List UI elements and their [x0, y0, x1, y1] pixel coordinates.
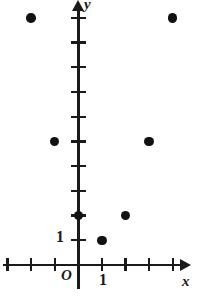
x-unit-tick-label: 1 [99, 272, 107, 288]
x-axis-arrow-icon [180, 259, 191, 271]
x-axis-tick [172, 258, 174, 271]
y-axis-tick [71, 165, 86, 167]
data-point [121, 211, 130, 220]
y-axis-tick [71, 140, 86, 142]
y-axis-tick [71, 91, 86, 93]
x-axis-tick [30, 258, 32, 271]
y-axis-line [77, 8, 80, 289]
x-axis-tick [101, 258, 103, 271]
y-axis-tick [71, 17, 86, 19]
x-axis-label: x [182, 274, 190, 289]
x-axis-tick [148, 258, 150, 271]
data-point [50, 137, 59, 146]
data-point [144, 137, 153, 146]
data-point [74, 211, 83, 220]
x-axis-tick [54, 258, 56, 271]
y-axis-tick [71, 41, 86, 43]
y-axis-tick [71, 66, 86, 68]
scatter-plot-figure: y x O 1 1 [0, 0, 200, 297]
x-axis-tick [124, 258, 126, 271]
y-axis-tick [71, 190, 86, 192]
data-point [26, 13, 35, 22]
origin-label: O [61, 268, 72, 283]
data-point [97, 236, 106, 245]
y-unit-tick-label: 1 [56, 229, 64, 245]
y-axis-arrow-icon [72, 0, 84, 11]
y-axis-tick [71, 116, 86, 118]
y-axis-label: y [84, 0, 91, 12]
data-point [168, 13, 177, 22]
x-axis-tick [6, 258, 8, 271]
y-axis-tick [71, 239, 86, 241]
